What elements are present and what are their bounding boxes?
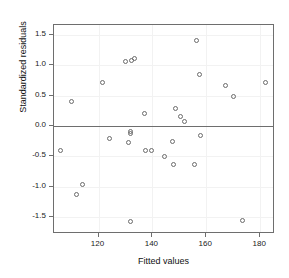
x-axis-title: Fitted values [53, 256, 274, 266]
gridline-vertical [260, 25, 261, 232]
data-point [263, 80, 268, 85]
x-tick-label: 180 [253, 240, 266, 248]
data-point [123, 59, 128, 64]
data-point [182, 119, 187, 124]
data-point [240, 218, 245, 223]
y-axis-title: Standardized residuals [18, 0, 28, 142]
data-point [143, 148, 148, 153]
scatter-plot-figure: Standardized residuals 1.51.00.50.0-0.5-… [0, 0, 289, 278]
gridline-horizontal [54, 35, 273, 36]
data-point [194, 38, 199, 43]
data-point [162, 154, 167, 159]
data-point [126, 140, 131, 145]
y-tick-label: -0.5 [32, 151, 46, 159]
data-point [198, 133, 203, 138]
x-tick-label: 120 [91, 240, 104, 248]
y-tick-label: 0.0 [35, 121, 46, 129]
data-point [58, 148, 63, 153]
data-point [100, 80, 105, 85]
data-point [192, 162, 197, 167]
data-point [74, 192, 79, 197]
data-point [107, 136, 112, 141]
plot-frame [53, 24, 274, 233]
data-point [69, 99, 74, 104]
data-point [80, 182, 85, 187]
data-point [128, 219, 133, 224]
data-point [149, 148, 154, 153]
y-tick-label: 1.5 [35, 30, 46, 38]
y-tick-label: 0.5 [35, 91, 46, 99]
data-point [223, 83, 228, 88]
gridline-vertical [152, 25, 153, 232]
data-point [197, 72, 202, 77]
data-point [178, 114, 183, 119]
data-point [171, 162, 176, 167]
data-point [173, 106, 178, 111]
gridline-horizontal [54, 96, 273, 97]
x-tick-mark [151, 233, 152, 237]
y-tick-label: -1.0 [32, 182, 46, 190]
plot-area [54, 25, 273, 232]
x-tick-mark [259, 233, 260, 237]
data-point [128, 131, 133, 136]
x-tick-label: 140 [145, 240, 158, 248]
zero-reference-line [54, 126, 273, 127]
data-point [132, 56, 137, 61]
x-tick-label: 160 [199, 240, 212, 248]
y-tick-label: -1.5 [32, 212, 46, 220]
data-point [231, 94, 236, 99]
gridline-vertical [206, 25, 207, 232]
gridline-horizontal [54, 65, 273, 66]
gridline-vertical [99, 25, 100, 232]
x-tick-mark [205, 233, 206, 237]
gridline-horizontal [54, 187, 273, 188]
data-point [142, 111, 147, 116]
y-tick-label: 1.0 [35, 60, 46, 68]
x-tick-mark [98, 233, 99, 237]
data-point [170, 139, 175, 144]
